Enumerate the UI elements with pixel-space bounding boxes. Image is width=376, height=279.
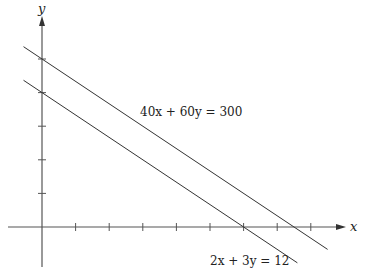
x-axis-arrowhead (336, 224, 346, 230)
y-axis-arrowhead (39, 16, 45, 26)
line-label-2x-3y-12: 2x + 3y = 12 (210, 254, 289, 268)
y-axis-label: y (37, 1, 46, 16)
line-40x-60y-300 (24, 47, 328, 250)
x-axis-label: x (350, 219, 358, 234)
line-label-40x-60y-300: 40x + 60y = 300 (140, 105, 242, 119)
diagram-canvas: x y 40x + 60y = 300 2x + 3y = 12 (0, 0, 376, 279)
